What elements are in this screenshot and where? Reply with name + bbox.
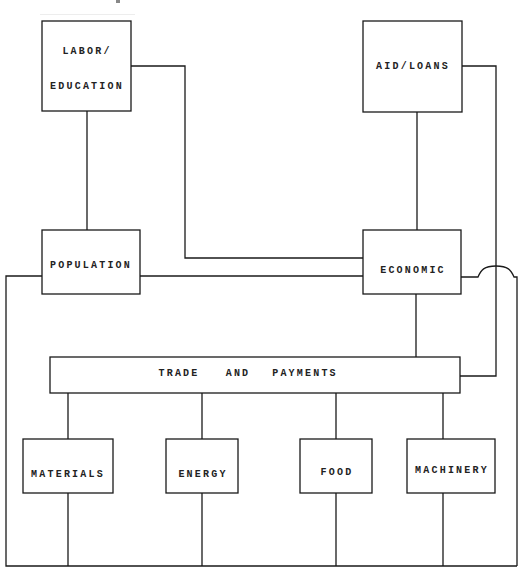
system-diagram: LABOR/ EDUCATION AID/LOANS POPULATION EC… — [0, 0, 528, 570]
node-economic: ECONOMIC — [363, 230, 461, 294]
node-label: AID/LOANS — [376, 61, 450, 72]
node-population: POPULATION — [42, 230, 140, 294]
node-label: MACHINERY — [415, 465, 489, 476]
edge-population-bus — [6, 276, 517, 566]
node-label: ENERGY — [178, 469, 227, 480]
node-label: ECONOMIC — [380, 265, 446, 276]
cropped-caption-fragment — [40, 0, 135, 15]
node-label: LABOR/ — [62, 46, 111, 57]
node-label: MATERIALS — [31, 469, 105, 480]
node-food: FOOD — [300, 439, 372, 493]
node-label: TRADE — [158, 368, 199, 379]
node-label: EDUCATION — [50, 81, 124, 92]
edge-aid-trade — [460, 66, 496, 376]
node-energy: ENERGY — [166, 439, 238, 493]
node-machinery: MACHINERY — [407, 439, 495, 493]
edge-labor-economic — [131, 66, 363, 258]
node-label: FOOD — [321, 467, 354, 478]
edge-economic-bus-hop — [461, 266, 517, 566]
node-label: POPULATION — [50, 260, 132, 271]
node-label: PAYMENTS — [272, 368, 338, 379]
node-aid-loans: AID/LOANS — [363, 21, 462, 112]
node-labor-education: LABOR/ EDUCATION — [42, 21, 131, 111]
node-materials: MATERIALS — [23, 439, 113, 493]
node-label: AND — [226, 368, 251, 379]
node-trade-payments: TRADE AND PAYMENTS — [50, 357, 460, 393]
